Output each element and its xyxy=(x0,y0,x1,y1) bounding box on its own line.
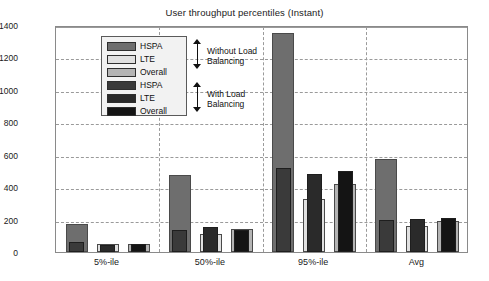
legend-item: LTE xyxy=(107,53,186,65)
bar-with-load-balancing xyxy=(131,244,146,252)
legend-swatch xyxy=(107,81,136,90)
legend-swatch xyxy=(107,94,136,103)
legend-label: Overall xyxy=(140,68,167,77)
without-lb-line1: Without Load xyxy=(207,46,257,56)
chart-title: User throughput percentiles (Instant) xyxy=(0,7,489,18)
legend-label: HSPA xyxy=(140,42,163,51)
gridline-horizontal xyxy=(56,124,467,125)
gridline-vertical xyxy=(263,27,264,252)
legend-swatch xyxy=(107,55,136,64)
bar-with-load-balancing xyxy=(276,168,291,252)
legend-item: HSPA xyxy=(107,79,186,91)
gridline-horizontal xyxy=(56,157,467,158)
with-load-balancing-arrow xyxy=(192,82,203,112)
bar-with-load-balancing xyxy=(100,245,115,252)
gridline-horizontal xyxy=(56,222,467,223)
y-axis-tick-label: 1000 xyxy=(0,86,18,96)
arrow-shaft xyxy=(197,86,198,108)
legend-item: LTE xyxy=(107,92,186,104)
y-axis-tick-label: 1400 xyxy=(0,21,18,31)
bar-with-load-balancing xyxy=(307,174,322,252)
legend-label: LTE xyxy=(140,55,155,64)
gridline-vertical xyxy=(366,27,367,252)
bar-with-load-balancing xyxy=(69,242,84,252)
arrow-shaft xyxy=(197,43,198,65)
y-axis-tick-label: 600 xyxy=(0,151,18,161)
legend-label: Overall xyxy=(140,107,167,116)
bar-with-load-balancing xyxy=(410,219,425,252)
x-axis-tick-label: Avg xyxy=(409,257,424,267)
arrow-head-down-icon xyxy=(193,64,201,69)
chart-container: User throughput percentiles (Instant) UE… xyxy=(0,0,489,281)
arrow-head-down-icon xyxy=(193,107,201,112)
without-load-balancing-label: Without Load Balancing xyxy=(207,46,257,66)
gridline-horizontal xyxy=(56,27,467,28)
with-lb-line2: Balancing xyxy=(207,99,245,109)
bar-with-load-balancing xyxy=(338,171,353,252)
y-axis-tick-label: 800 xyxy=(0,118,18,128)
without-load-balancing-arrow xyxy=(192,39,203,69)
y-axis-tick-label: 200 xyxy=(0,216,18,226)
without-lb-line2: Balancing xyxy=(207,56,257,66)
bar-with-load-balancing xyxy=(234,230,249,252)
legend-item: Overall xyxy=(107,105,186,117)
legend-swatch xyxy=(107,42,136,51)
y-axis-tick-label: 1200 xyxy=(0,53,18,63)
bar-with-load-balancing xyxy=(203,227,218,252)
chart-legend: HSPALTEOverallHSPALTEOverall xyxy=(101,36,187,116)
bar-with-load-balancing xyxy=(172,230,187,252)
legend-swatch xyxy=(107,68,136,77)
legend-label: LTE xyxy=(140,94,155,103)
y-axis-tick-label: 0 xyxy=(0,248,18,258)
with-lb-line1: With Load xyxy=(207,89,245,99)
legend-item: HSPA xyxy=(107,40,186,52)
x-axis-tick-label: 50%-ile xyxy=(195,257,225,267)
legend-label: HSPA xyxy=(140,81,163,90)
with-load-balancing-label: With Load Balancing xyxy=(207,89,245,109)
bar-with-load-balancing xyxy=(441,218,456,252)
bar-with-load-balancing xyxy=(379,220,394,252)
y-axis-tick-label: 400 xyxy=(0,183,18,193)
x-axis-tick-label: 5%-ile xyxy=(94,257,119,267)
legend-swatch xyxy=(107,107,136,116)
gridline-horizontal xyxy=(56,189,467,190)
x-axis-tick-label: 95%-ile xyxy=(298,257,328,267)
legend-item: Overall xyxy=(107,66,186,78)
